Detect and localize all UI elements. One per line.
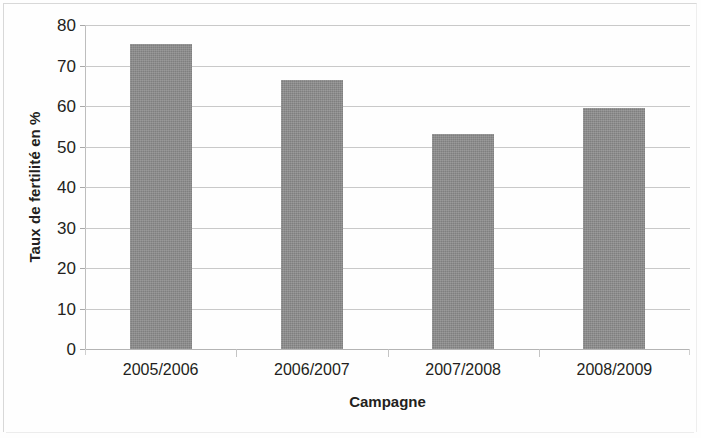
y-axis-tick-label-80: 80 (57, 17, 76, 34)
x-axis-tick-label-2007-2008: 2007/2008 (425, 362, 501, 378)
category-separator-1 (236, 349, 237, 357)
y-axis-tick-label-60: 60 (57, 98, 76, 115)
y-axis-tick-label-40: 40 (57, 179, 76, 196)
bar-series (85, 25, 690, 349)
category-separator-3 (539, 349, 540, 357)
x-axis-tick-label-2008-2009: 2008/2009 (577, 362, 653, 378)
y-axis-tick-label-30: 30 (57, 219, 76, 236)
plot-area: 01020304050607080 2005/20062006/20072007… (85, 25, 690, 349)
y-axis-tick-label-50: 50 (57, 138, 76, 155)
x-axis-tick-label-2006-2007: 2006/2007 (274, 362, 350, 378)
y-axis-title: Taux de fertilité en % (23, 25, 45, 349)
x-axis-edge-right (689, 349, 690, 355)
y-axis-tick-label-20: 20 (57, 260, 76, 277)
bar-chart: Taux de fertilité en % 01020304050607080… (0, 0, 701, 438)
bar-2007-2008 (432, 134, 494, 349)
scanned-page: Taux de fertilité en % 01020304050607080… (0, 0, 701, 438)
x-axis-title: Campagne (85, 393, 690, 410)
x-axis-edge-left (85, 349, 86, 355)
bar-2008-2009 (583, 108, 645, 349)
category-separator-2 (388, 349, 389, 357)
y-axis-tick-label-0: 0 (67, 341, 76, 358)
x-axis-tick-label-2005-2006: 2005/2006 (123, 362, 199, 378)
y-axis-tick-label-70: 70 (57, 57, 76, 74)
y-axis-tick-label-10: 10 (57, 300, 76, 317)
bar-2006-2007 (281, 80, 343, 349)
bar-2005-2006 (130, 44, 192, 349)
